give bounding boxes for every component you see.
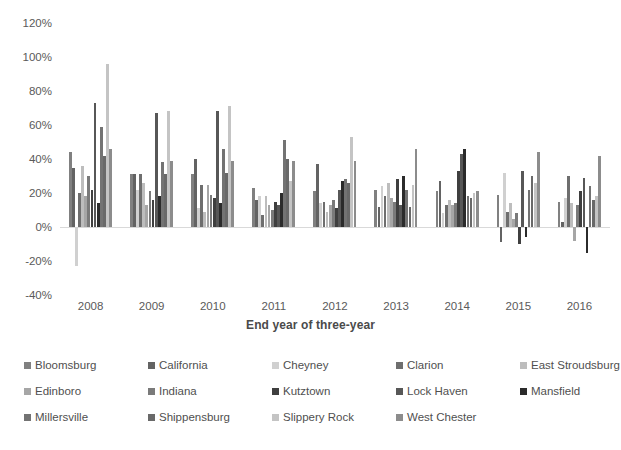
bar	[72, 168, 75, 228]
legend-label: Kutztown	[283, 385, 330, 397]
y-axis-tick-label: 40%	[4, 153, 52, 165]
legend-item-clarion[interactable]: Clarion	[396, 359, 443, 371]
legend-item-mansfield[interactable]: Mansfield	[520, 385, 580, 397]
legend-swatch-icon	[24, 414, 31, 421]
bar	[570, 203, 573, 227]
bar	[109, 149, 112, 227]
bar	[170, 161, 173, 227]
legend-label: Clarion	[407, 359, 443, 371]
legend-row: MillersvilleShippensburgSlippery RockWes…	[24, 404, 604, 430]
legend-swatch-icon	[520, 388, 527, 395]
legend-swatch-icon	[396, 362, 403, 369]
bar-group-2011	[243, 23, 304, 295]
x-axis-tick-label: 2012	[304, 300, 365, 312]
legend-label: Lock Haven	[407, 385, 468, 397]
legend-item-millersville[interactable]: Millersville	[24, 411, 88, 423]
x-axis-tick-label: 2008	[60, 300, 121, 312]
legend-swatch-icon	[148, 388, 155, 395]
y-axis-tick-label: 0%	[4, 221, 52, 233]
bar	[292, 161, 295, 227]
x-axis-title: End year of three-year	[0, 318, 621, 332]
bar	[518, 227, 521, 244]
y-axis-tick-label: 20%	[4, 187, 52, 199]
legend-label: East Stroudsburg	[531, 359, 620, 371]
x-axis-tick-label: 2013	[366, 300, 427, 312]
legend-swatch-icon	[272, 388, 279, 395]
bar	[586, 227, 589, 253]
legend-item-california[interactable]: California	[148, 359, 208, 371]
legend-swatch-icon	[520, 362, 527, 369]
legend-label: West Chester	[407, 411, 476, 423]
bar	[573, 227, 576, 241]
bar-group-2008	[60, 23, 121, 295]
x-axis-tick-label: 2010	[182, 300, 243, 312]
y-axis-tick-label: 120%	[4, 17, 52, 29]
legend-swatch-icon	[272, 362, 279, 369]
x-axis-tick-label: 2015	[488, 300, 549, 312]
bar	[231, 161, 234, 227]
legend-item-shippensburg[interactable]: Shippensburg	[148, 411, 230, 423]
legend-item-bloomsburg[interactable]: Bloomsburg	[24, 359, 96, 371]
x-axis-tick-label: 2014	[427, 300, 488, 312]
bar-group-2016	[549, 23, 610, 295]
bar	[75, 227, 78, 266]
bar	[537, 152, 540, 227]
bar	[500, 227, 503, 242]
legend-label: California	[159, 359, 208, 371]
bar	[525, 227, 528, 237]
legend-label: Mansfield	[531, 385, 580, 397]
y-axis-tick-label: -20%	[4, 255, 52, 267]
x-axis-tick-label: 2011	[243, 300, 304, 312]
legend-row: EdinboroIndianaKutztownLock HavenMansfie…	[24, 378, 604, 404]
bar	[354, 161, 357, 227]
bar	[515, 213, 518, 227]
legend-swatch-icon	[396, 414, 403, 421]
bar	[598, 156, 601, 227]
legend-label: Indiana	[159, 385, 197, 397]
bar-group-2009	[121, 23, 182, 295]
legend-item-lock-haven[interactable]: Lock Haven	[396, 385, 468, 397]
y-axis-tick-label: 100%	[4, 51, 52, 63]
bar-groups	[60, 23, 610, 295]
legend-item-indiana[interactable]: Indiana	[148, 385, 197, 397]
bar	[583, 178, 586, 227]
legend-item-east-stroudsburg[interactable]: East Stroudsburg	[520, 359, 620, 371]
legend-swatch-icon	[272, 414, 279, 421]
legend-label: Slippery Rock	[283, 411, 354, 423]
bar-group-2013	[366, 23, 427, 295]
y-axis-tick-label: -40%	[4, 289, 52, 301]
bar-chart: 120%100%80%60%40%20%0%-20%-40% 200820092…	[0, 0, 621, 450]
chart-legend: BloomsburgCaliforniaCheyneyClarionEast S…	[24, 352, 604, 430]
x-axis-tick-label: 2009	[121, 300, 182, 312]
legend-label: Shippensburg	[159, 411, 230, 423]
bar-group-2010	[182, 23, 243, 295]
y-axis-tick-label: 60%	[4, 119, 52, 131]
legend-swatch-icon	[396, 388, 403, 395]
legend-label: Millersville	[35, 411, 88, 423]
legend-swatch-icon	[148, 414, 155, 421]
legend-item-edinboro[interactable]: Edinboro	[24, 385, 81, 397]
bar	[476, 191, 479, 227]
bar	[415, 149, 418, 227]
bar	[521, 171, 524, 227]
bar	[497, 195, 500, 227]
legend-item-kutztown[interactable]: Kutztown	[272, 385, 330, 397]
bar-group-2012	[304, 23, 365, 295]
legend-row: BloomsburgCaliforniaCheyneyClarionEast S…	[24, 352, 604, 378]
legend-label: Bloomsburg	[35, 359, 96, 371]
legend-swatch-icon	[24, 362, 31, 369]
bar-group-2014	[427, 23, 488, 295]
plot-area	[60, 23, 610, 295]
legend-item-cheyney[interactable]: Cheyney	[272, 359, 328, 371]
legend-item-west-chester[interactable]: West Chester	[396, 411, 476, 423]
x-axis-tick-label: 2016	[549, 300, 610, 312]
legend-label: Cheyney	[283, 359, 328, 371]
legend-item-slippery-rock[interactable]: Slippery Rock	[272, 411, 354, 423]
legend-swatch-icon	[148, 362, 155, 369]
y-axis-tick-label: 80%	[4, 85, 52, 97]
legend-label: Edinboro	[35, 385, 81, 397]
legend-swatch-icon	[24, 388, 31, 395]
bar-group-2015	[488, 23, 549, 295]
